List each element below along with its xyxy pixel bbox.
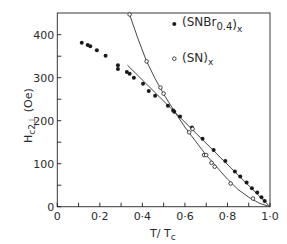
legend-marker-open-icon — [173, 57, 177, 61]
data-point-snbr — [255, 191, 259, 195]
legend: (SNBr0.4)x (SN)x — [172, 15, 243, 67]
data-point-sn — [162, 92, 166, 96]
data-point-snbr — [259, 195, 263, 199]
data-point-snbr — [178, 114, 182, 118]
data-point-snbr — [166, 104, 170, 108]
data-points — [80, 13, 267, 203]
data-point-snbr — [201, 137, 205, 141]
data-point-sn — [187, 131, 191, 135]
data-point-sn — [128, 13, 132, 17]
chart-root: 00·20·40·60·81·0 0100200300400 T/ Tc Hc2… — [0, 0, 287, 244]
data-point-snbr — [80, 41, 84, 45]
x-tick-label: 0·4 — [134, 210, 152, 223]
data-point-sn — [191, 127, 195, 131]
data-point-snbr — [116, 67, 120, 71]
y-tick-label: 0 — [47, 201, 54, 214]
data-point-snbr — [250, 186, 254, 190]
data-point-snbr — [233, 169, 237, 173]
plot-border — [57, 13, 270, 207]
fit-line-snbr — [128, 65, 271, 207]
legend-label-snbr: (SNBr0.4)x — [182, 15, 243, 34]
data-point-snbr — [263, 199, 267, 203]
data-point-snbr — [153, 94, 157, 98]
x-tick-label: 0 — [54, 210, 61, 223]
data-point-sn — [204, 153, 208, 157]
data-point-sn — [159, 86, 163, 90]
y-tick-label: 400 — [33, 29, 54, 42]
data-point-snbr — [172, 110, 176, 114]
data-point-snbr — [238, 175, 242, 179]
fit-curve-sn — [130, 15, 270, 207]
data-point-snbr — [116, 63, 120, 67]
data-point-snbr — [245, 181, 249, 185]
x-axis-ticks: 00·20·40·60·81·0 — [54, 203, 279, 223]
data-point-sn — [213, 165, 217, 169]
data-point-snbr — [223, 159, 227, 163]
legend-marker-filled-icon — [172, 22, 176, 26]
data-point-snbr — [212, 148, 216, 152]
data-point-sn — [210, 161, 214, 165]
x-tick-label: 1·0 — [261, 210, 279, 223]
y-tick-label: 100 — [33, 158, 54, 171]
legend-label-sn: (SN)x — [182, 51, 214, 67]
y-tick-label: 300 — [33, 72, 54, 85]
x-tick-label: 0·2 — [91, 210, 109, 223]
plot-frame — [57, 13, 270, 207]
fit-lines — [128, 15, 271, 207]
data-point-sn — [229, 182, 233, 186]
data-point-sn — [251, 197, 255, 201]
data-point-sn — [145, 60, 149, 64]
data-point-snbr — [95, 48, 99, 52]
data-point-snbr — [128, 72, 132, 76]
data-point-snbr — [141, 82, 145, 86]
data-point-snbr — [104, 54, 108, 58]
data-point-snbr — [88, 44, 92, 48]
x-tick-label: 0·8 — [219, 210, 237, 223]
x-tick-label: 0·6 — [176, 210, 194, 223]
data-point-snbr — [147, 89, 151, 93]
x-axis-label: T/ Tc — [149, 227, 176, 242]
data-point-snbr — [132, 76, 136, 80]
